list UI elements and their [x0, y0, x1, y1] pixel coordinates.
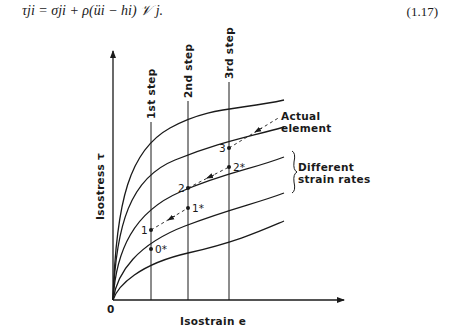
annotation-rates-line1: Different — [298, 161, 354, 173]
point-label: 0* — [155, 243, 167, 255]
actual-element-path — [151, 117, 280, 230]
x-axis-label: Isostrain e — [180, 315, 246, 327]
direction-arrow-icon — [207, 175, 214, 178]
point-label: 1 — [141, 224, 148, 236]
step-label-3: 3rd step — [223, 27, 235, 79]
origin-label: 0 — [107, 303, 115, 315]
annotation-actual-line2: element — [281, 122, 332, 134]
annotation-actual-line1: Actual — [281, 110, 320, 122]
direction-arrow-icon — [168, 216, 175, 220]
point-label: 2 — [178, 182, 185, 194]
point-label: 3 — [219, 142, 226, 154]
point-label: 2* — [233, 161, 245, 173]
brace-icon — [292, 151, 297, 193]
point-label: 1* — [192, 202, 204, 214]
curve-5 — [113, 221, 284, 300]
y-axis-label: Isostress τ — [94, 153, 106, 220]
annotation-rates-line2: strain rates — [298, 173, 371, 185]
step-label-2: 2nd step — [182, 44, 194, 98]
stress-strain-diagram: 0* 1 1* 2 2* 3 1st step 2nd step 3rd ste… — [0, 0, 454, 331]
step-label-1: 1st step — [145, 68, 157, 119]
state-points — [149, 146, 231, 251]
direction-arrow-icon — [255, 128, 262, 132]
curve-3 — [113, 157, 284, 300]
